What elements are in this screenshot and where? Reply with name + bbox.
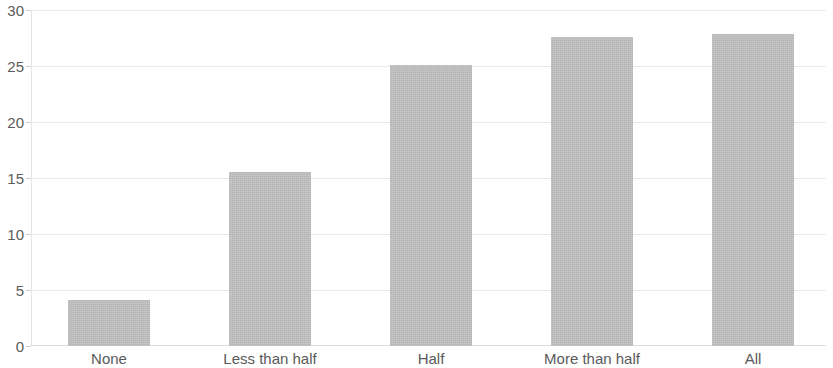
bar-half[interactable] xyxy=(390,65,472,346)
y-axis-tick-labels: 30 25 20 15 10 5 0 xyxy=(0,0,24,368)
bar-less-than-half[interactable] xyxy=(229,172,311,346)
y-tick-mark xyxy=(26,346,31,347)
y-tick-label: 30 xyxy=(0,3,24,18)
bars-layer xyxy=(31,10,826,346)
y-tick-label: 25 xyxy=(0,59,24,74)
x-tick-label-half: Half xyxy=(418,350,445,368)
y-tick-label: 10 xyxy=(0,227,24,242)
bar-all[interactable] xyxy=(712,34,794,346)
x-tick-label-none: None xyxy=(91,350,127,368)
y-tick-label: 15 xyxy=(0,171,24,186)
x-tick-label-all: All xyxy=(745,350,762,368)
x-tick-label-less-than-half: Less than half xyxy=(223,350,316,368)
x-tick-label-more-than-half: More than half xyxy=(544,350,640,368)
bar-chart: 30 25 20 15 10 5 0 None Less than h xyxy=(0,0,833,368)
y-tick-label: 0 xyxy=(0,339,24,354)
bar-more-than-half[interactable] xyxy=(551,37,633,346)
plot-area xyxy=(31,10,826,346)
bar-none[interactable] xyxy=(68,300,150,346)
y-tick-label: 5 xyxy=(0,283,24,298)
x-axis-tick-labels: None Less than half Half More than half … xyxy=(31,350,826,368)
y-tick-label: 20 xyxy=(0,115,24,130)
